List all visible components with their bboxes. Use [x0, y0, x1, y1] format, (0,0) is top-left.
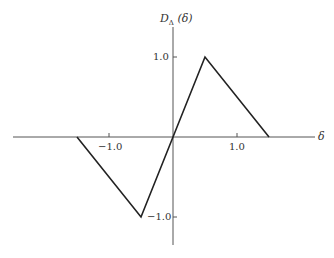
y-label-arg: (δ) [177, 12, 192, 25]
y-label-main: D [160, 12, 169, 25]
y-tick-label-1: 1.0 [153, 51, 169, 62]
y-label-sub: Δ [169, 19, 174, 27]
x-tick-label-neg1: −1.0 [98, 141, 122, 152]
y-axis-label: DΔ (δ) [160, 12, 193, 27]
x-tick-label-1: 1.0 [229, 141, 245, 152]
x-axis-label: δ [318, 130, 325, 143]
y-tick-label-neg1: −1.0 [147, 211, 171, 222]
